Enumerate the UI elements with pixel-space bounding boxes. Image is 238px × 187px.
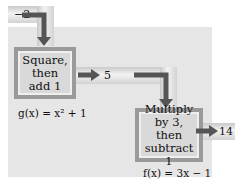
output-value: 14 <box>219 123 233 140</box>
right-arrow-icon <box>0 0 238 187</box>
